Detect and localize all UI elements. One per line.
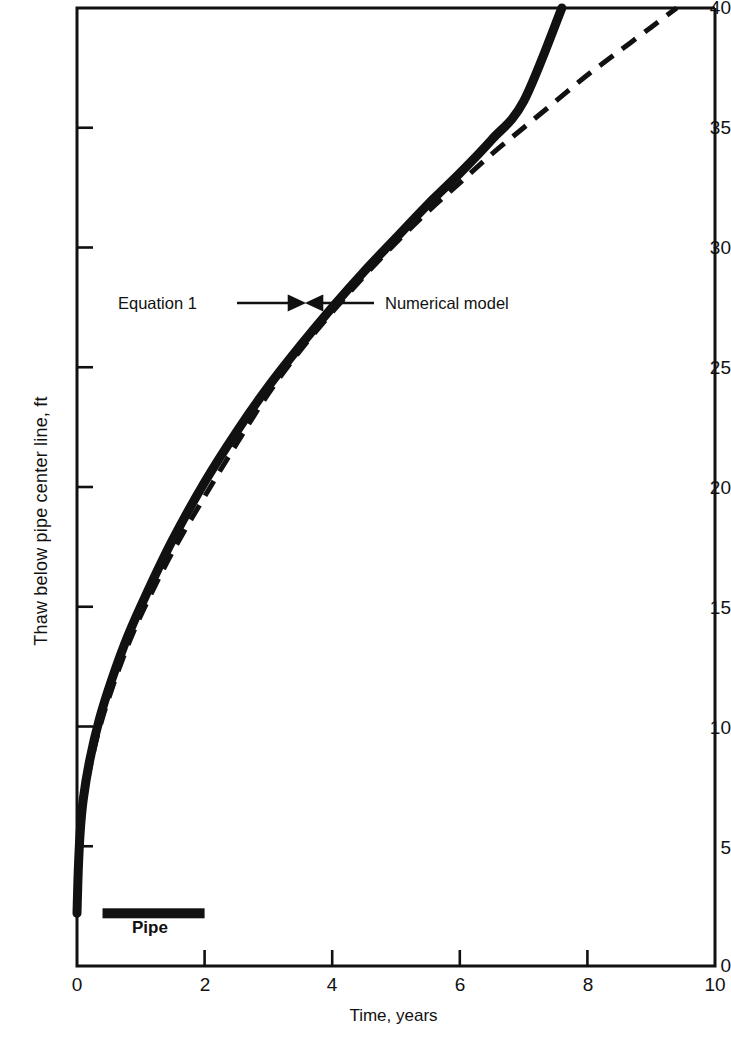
series-equation-1 xyxy=(77,8,562,913)
annotation-numerical-model-label: Numerical model xyxy=(385,295,509,312)
equation-1-arrow-icon xyxy=(237,297,303,310)
chart-figure: Thaw below pipe center line, ft Time, ye… xyxy=(0,0,731,1043)
annotation-equation-1-label: Equation 1 xyxy=(118,295,197,312)
plot-canvas xyxy=(0,0,731,1043)
series-numerical-model xyxy=(80,8,677,834)
x-tick-marks xyxy=(205,950,588,966)
pipe-marker xyxy=(103,908,205,918)
pipe-label: Pipe xyxy=(132,920,168,937)
axis-frame xyxy=(77,8,715,966)
